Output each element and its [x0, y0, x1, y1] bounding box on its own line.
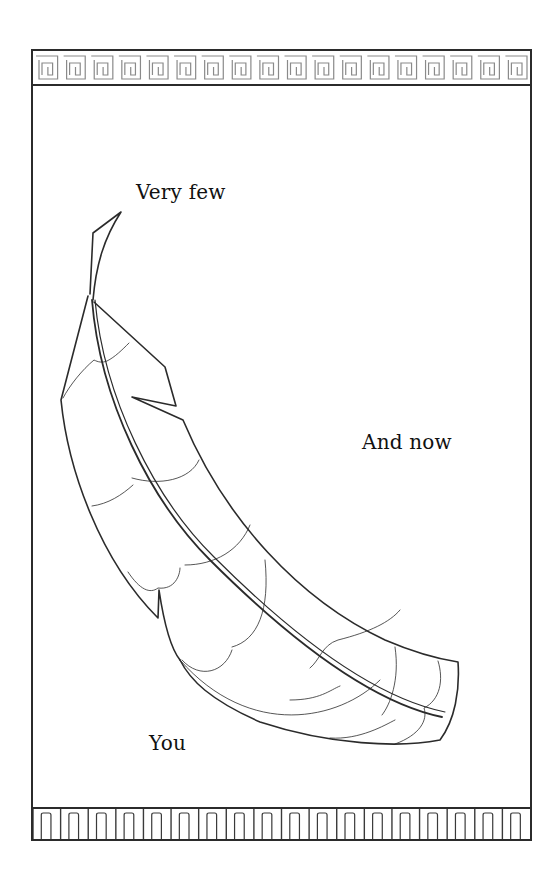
- label-you: You: [149, 731, 186, 755]
- feather-illustration: [0, 0, 560, 881]
- label-and-now: And now: [362, 430, 452, 454]
- label-very-few: Very few: [136, 180, 226, 204]
